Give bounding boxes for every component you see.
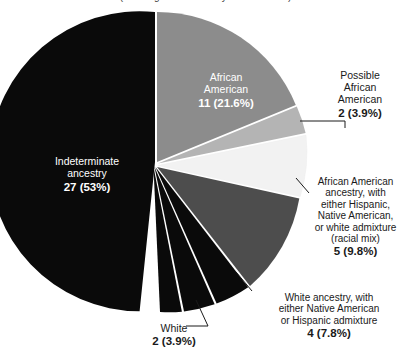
slice-label-racial-mix: African American ancestry, with either H… bbox=[300, 176, 411, 258]
slice-label-line: ancestry, with bbox=[325, 187, 385, 198]
slice-label-line: or white admixture bbox=[315, 222, 397, 233]
slice-label-line: Native American, bbox=[318, 210, 394, 221]
slice-label-african-american: African American 11 (21.6%) bbox=[178, 72, 274, 110]
slice-label-line: African bbox=[210, 71, 243, 83]
slice-value: 2 (3.9%) bbox=[140, 335, 208, 348]
slice-label-line: either Hispanic, bbox=[321, 199, 390, 210]
slice-label-white-admixture: White ancestry, with either Native Ameri… bbox=[249, 292, 409, 340]
slice-value: 5 (9.8%) bbox=[300, 245, 411, 258]
slice-label-possible-african-american: Possible African American 2 (3.9%) bbox=[312, 70, 408, 120]
slice-label-line: (racial mix) bbox=[331, 233, 380, 244]
slice-value: 11 (21.6%) bbox=[178, 97, 274, 110]
slice-label-line: either Native American bbox=[279, 303, 380, 314]
slice-value: 2 (3.9%) bbox=[312, 107, 408, 120]
slice-label-line: ancestry bbox=[67, 167, 107, 179]
slice-label-indeterminate: Indeterminate ancestry 27 (53%) bbox=[22, 156, 152, 194]
slice-label-line: African bbox=[344, 81, 377, 93]
slice-label-line: Possible bbox=[340, 69, 380, 81]
slice-label-line: White bbox=[161, 322, 188, 334]
slice-value: 27 (53%) bbox=[22, 181, 152, 194]
slice-label-line: or Hispanic admixture bbox=[281, 315, 378, 326]
slice-value: 4 (7.8%) bbox=[249, 327, 409, 340]
slice-label-line: Indeterminate bbox=[55, 155, 119, 167]
slice-label-line: African American bbox=[318, 176, 394, 187]
slice-label-line: American bbox=[204, 83, 248, 95]
chart-page: (n = 51 genetic ancestry assessments) Af… bbox=[0, 0, 411, 361]
slice-label-line: American bbox=[338, 93, 382, 105]
slice-label-line: White ancestry, with bbox=[285, 292, 374, 303]
leader-line-possible-african-american bbox=[300, 121, 345, 128]
slice-label-white: White 2 (3.9%) bbox=[140, 323, 208, 348]
